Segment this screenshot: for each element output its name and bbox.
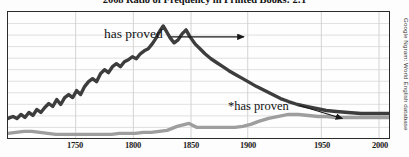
annotation-layer	[8, 12, 389, 139]
ngram-frequency-chart: 2008 Ratio of Frequency in Printed Books…	[0, 0, 409, 157]
has-proven-label: *has proven	[228, 99, 289, 114]
x-tick-1950: 1950	[314, 140, 330, 150]
has-proved-label: has proved	[104, 26, 163, 42]
chart-title: 2008 Ratio of Frequency in Printed Books…	[0, 0, 409, 5]
plot-area	[7, 11, 390, 139]
x-tick-1750: 1750	[67, 140, 83, 150]
x-tick-1800: 1800	[125, 140, 141, 150]
x-axis-labels: 1750 1800 1850 1900 1950 2000	[0, 140, 409, 154]
x-tick-1850: 1850	[183, 140, 199, 150]
source-credit: Google Ngram: World English database	[403, 18, 409, 131]
x-tick-1900: 1900	[240, 140, 256, 150]
has-proven-arrow	[299, 106, 342, 119]
x-tick-2000: 2000	[372, 140, 388, 150]
